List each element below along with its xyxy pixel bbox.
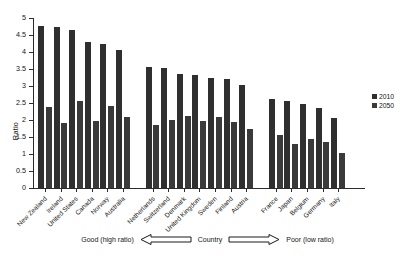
bar-2010-germany [316, 108, 322, 188]
y-axis-tick-label: 4 [22, 48, 26, 55]
x-axis-label-italy: Italy [328, 195, 342, 209]
y-axis-tick-label: 1.5 [16, 133, 26, 140]
legend-item-2050: 2050 [372, 101, 394, 110]
legend-swatch-2010-icon [372, 94, 377, 99]
right-arrow-icon [228, 234, 280, 245]
bar-2050-netherlands [153, 125, 159, 188]
bar-2050-norway [108, 106, 114, 188]
bar-2050-ireland [61, 123, 67, 188]
bar-2050-denmark [185, 116, 191, 188]
bar-2050-germany [323, 142, 329, 188]
legend-item-2010: 2010 [372, 92, 394, 101]
bar-2010-switzerland [161, 68, 167, 188]
x-axis-tick [215, 188, 216, 192]
y-axis-tick-label: 3 [22, 82, 26, 89]
bar-2050-italy [339, 153, 345, 188]
bar-2010-austria [239, 85, 245, 188]
bar-2010-norway [100, 44, 106, 188]
bar-2010-canada [85, 42, 91, 188]
x-axis-tick [76, 188, 77, 192]
legend-swatch-2050-icon [372, 103, 377, 108]
bar-2050-france [277, 135, 283, 188]
x-axis-tick [246, 188, 247, 192]
bar-2050-belgium [308, 139, 314, 188]
y-axis-tick-label: 0 [22, 184, 26, 191]
y-axis-tick-label: 0.5 [16, 167, 26, 174]
legend-label-2010: 2010 [379, 92, 394, 101]
chart-figure: Ratio 54.543.532.521.510.50 New ZealandI… [0, 0, 415, 262]
x-axis-tick [45, 188, 46, 192]
annotation-left-label: Good (high ratio) [81, 236, 134, 243]
x-axis-tick [231, 188, 232, 192]
bar-2010-united-kingdom [192, 75, 198, 188]
bar-2010-denmark [177, 74, 183, 188]
bar-2050-australia [124, 117, 130, 188]
y-axis-tick [29, 188, 33, 189]
bar-2010-italy [331, 118, 337, 188]
left-arrow-icon [140, 234, 192, 245]
bar-2050-united-kingdom [200, 121, 206, 188]
bar-2010-finland [224, 79, 230, 188]
plot-area: 54.543.532.521.510.50 [33, 18, 363, 188]
x-axis-tick [338, 188, 339, 192]
y-axis-tick-label: 1 [22, 150, 26, 157]
legend: 2010 2050 [372, 92, 394, 110]
x-axis-label-new-zealand: New Zealand [16, 195, 48, 227]
x-axis-tick [291, 188, 292, 192]
y-axis-tick-label: 3.5 [16, 65, 26, 72]
x-axis-tick [153, 188, 154, 192]
x-axis-tick [184, 188, 185, 192]
y-axis-tick-label: 2.5 [16, 99, 26, 106]
legend-label-2050: 2050 [379, 101, 394, 110]
x-axis-tick [123, 188, 124, 192]
x-axis-tick [61, 188, 62, 192]
y-axis-tick-label: 2 [22, 116, 26, 123]
x-axis-tick [307, 188, 308, 192]
x-axis-label-france: France [259, 195, 278, 214]
bar-2010-united-states [69, 30, 75, 188]
bar-2050-new-zealand [46, 107, 52, 188]
bar-2010-belgium [300, 104, 306, 188]
bar-2050-canada [93, 121, 99, 188]
x-axis-tick [107, 188, 108, 192]
bar-2050-finland [231, 122, 237, 188]
x-axis-tick [276, 188, 277, 192]
annotation-right-label: Poor (low ratio) [286, 236, 333, 243]
x-axis-tick [323, 188, 324, 192]
axis-annotation: Good (high ratio) Country Poor (low rati… [0, 234, 415, 245]
y-axis-tick-label: 5 [22, 14, 26, 21]
bar-2050-switzerland [169, 120, 175, 188]
bar-2050-japan [292, 144, 298, 188]
bar-2010-netherlands [146, 67, 152, 188]
bar-2010-sweden [208, 78, 214, 189]
bar-groups [33, 18, 363, 188]
bar-2050-austria [247, 129, 253, 188]
x-axis-tick [199, 188, 200, 192]
bar-2010-japan [284, 101, 290, 188]
annotation-center-label: Country [198, 236, 223, 243]
bar-2010-france [269, 99, 275, 188]
bar-2010-australia [116, 50, 122, 188]
y-axis-tick-label: 4.5 [16, 31, 26, 38]
bar-2010-ireland [54, 27, 60, 188]
x-axis-tick [168, 188, 169, 192]
bar-2050-sweden [216, 117, 222, 188]
x-axis-tick [92, 188, 93, 192]
bar-2010-new-zealand [38, 26, 44, 188]
bar-2050-united-states [77, 101, 83, 188]
